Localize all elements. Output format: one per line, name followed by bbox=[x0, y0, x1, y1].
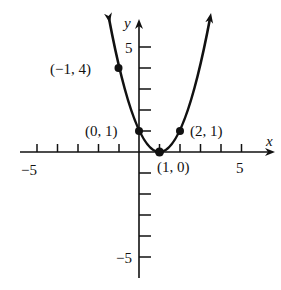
point-neg1-4 bbox=[115, 64, 123, 72]
y-tick-label-neg5: −5 bbox=[116, 250, 132, 266]
point-label-2-1: (2, 1) bbox=[190, 123, 223, 140]
y-axis-label: y bbox=[122, 15, 131, 31]
parabola-graph: x y −5 5 5 −5 (−1, 4) (0, 1) (1, 0) (2, … bbox=[0, 0, 281, 290]
x-axis bbox=[20, 144, 270, 152]
point-1-0 bbox=[155, 148, 164, 157]
point-2-1 bbox=[176, 127, 184, 135]
y-axis bbox=[139, 24, 151, 278]
x-axis-label: x bbox=[265, 133, 273, 149]
y-tick-label-5: 5 bbox=[125, 40, 133, 56]
x-tick-label-5: 5 bbox=[236, 160, 244, 176]
point-label-1-0: (1, 0) bbox=[157, 159, 190, 176]
point-0-1 bbox=[135, 127, 143, 135]
point-label-neg1-4: (−1, 4) bbox=[50, 61, 91, 78]
point-label-0-1: (0, 1) bbox=[85, 123, 118, 140]
x-tick-label-neg5: −5 bbox=[21, 162, 37, 178]
